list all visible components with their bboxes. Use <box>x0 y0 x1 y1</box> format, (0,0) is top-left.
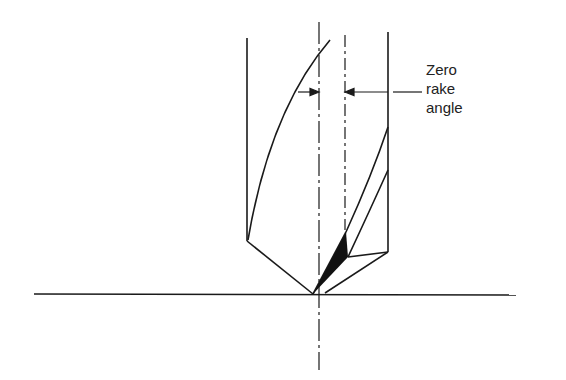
workpiece-surface-line <box>34 294 516 295</box>
arrowhead-right-icon <box>310 89 319 96</box>
label-line-1: Zero <box>426 60 463 79</box>
drill-diagram <box>0 0 566 380</box>
label-line-3: angle <box>426 98 463 117</box>
zero-rake-angle-label: Zero rake angle <box>426 60 463 117</box>
left-cutting-lip <box>247 241 313 294</box>
arrowhead-left-icon <box>345 89 354 96</box>
label-line-2: rake <box>426 79 463 98</box>
left-flute-helix <box>248 40 330 240</box>
rake-wedge-fill <box>313 232 348 294</box>
